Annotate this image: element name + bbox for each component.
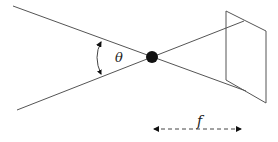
upper-ray xyxy=(13,6,246,91)
angle-label: θ xyxy=(115,50,123,65)
lower-ray xyxy=(17,21,244,110)
focal-length-label: f xyxy=(196,113,205,129)
pinhole-camera-diagram: θ f xyxy=(0,0,278,142)
pinhole-dot xyxy=(146,51,158,63)
image-plane xyxy=(226,11,266,103)
angle-arc xyxy=(97,42,101,74)
